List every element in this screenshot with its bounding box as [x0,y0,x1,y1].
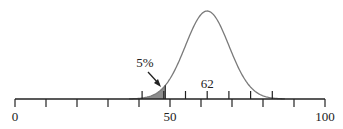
arrow-icon [148,72,161,87]
tick-label: 0 [12,109,19,124]
tick-label: 50 [164,109,177,124]
normal-distribution-chart: 050100 62 5% [0,0,343,129]
lower-ticks [15,99,325,107]
tick-label: 100 [315,109,335,124]
tail-percent-label: 5% [136,55,154,70]
tick-labels: 050100 [12,109,335,124]
mean-label: 62 [201,76,214,91]
